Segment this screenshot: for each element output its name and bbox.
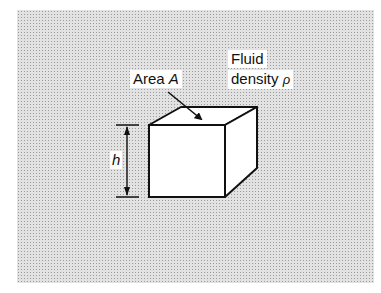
height-label: h [110, 151, 122, 169]
arrow-down-icon [124, 187, 130, 196]
density-symbol: ρ [283, 72, 290, 87]
fluid-label-text: Fluid [231, 50, 264, 67]
arrow-up-icon [124, 126, 130, 135]
height-symbol: h [112, 151, 120, 168]
area-label-text: Area [133, 70, 165, 87]
density-label: density ρ [228, 70, 293, 89]
cube [149, 107, 257, 197]
fluid-label: Fluid [228, 50, 267, 68]
area-label: Area A [130, 70, 182, 88]
cube-front-face [149, 125, 225, 197]
area-symbol: A [169, 70, 179, 87]
cube-diagram [0, 0, 381, 293]
density-label-text: density [231, 70, 279, 87]
